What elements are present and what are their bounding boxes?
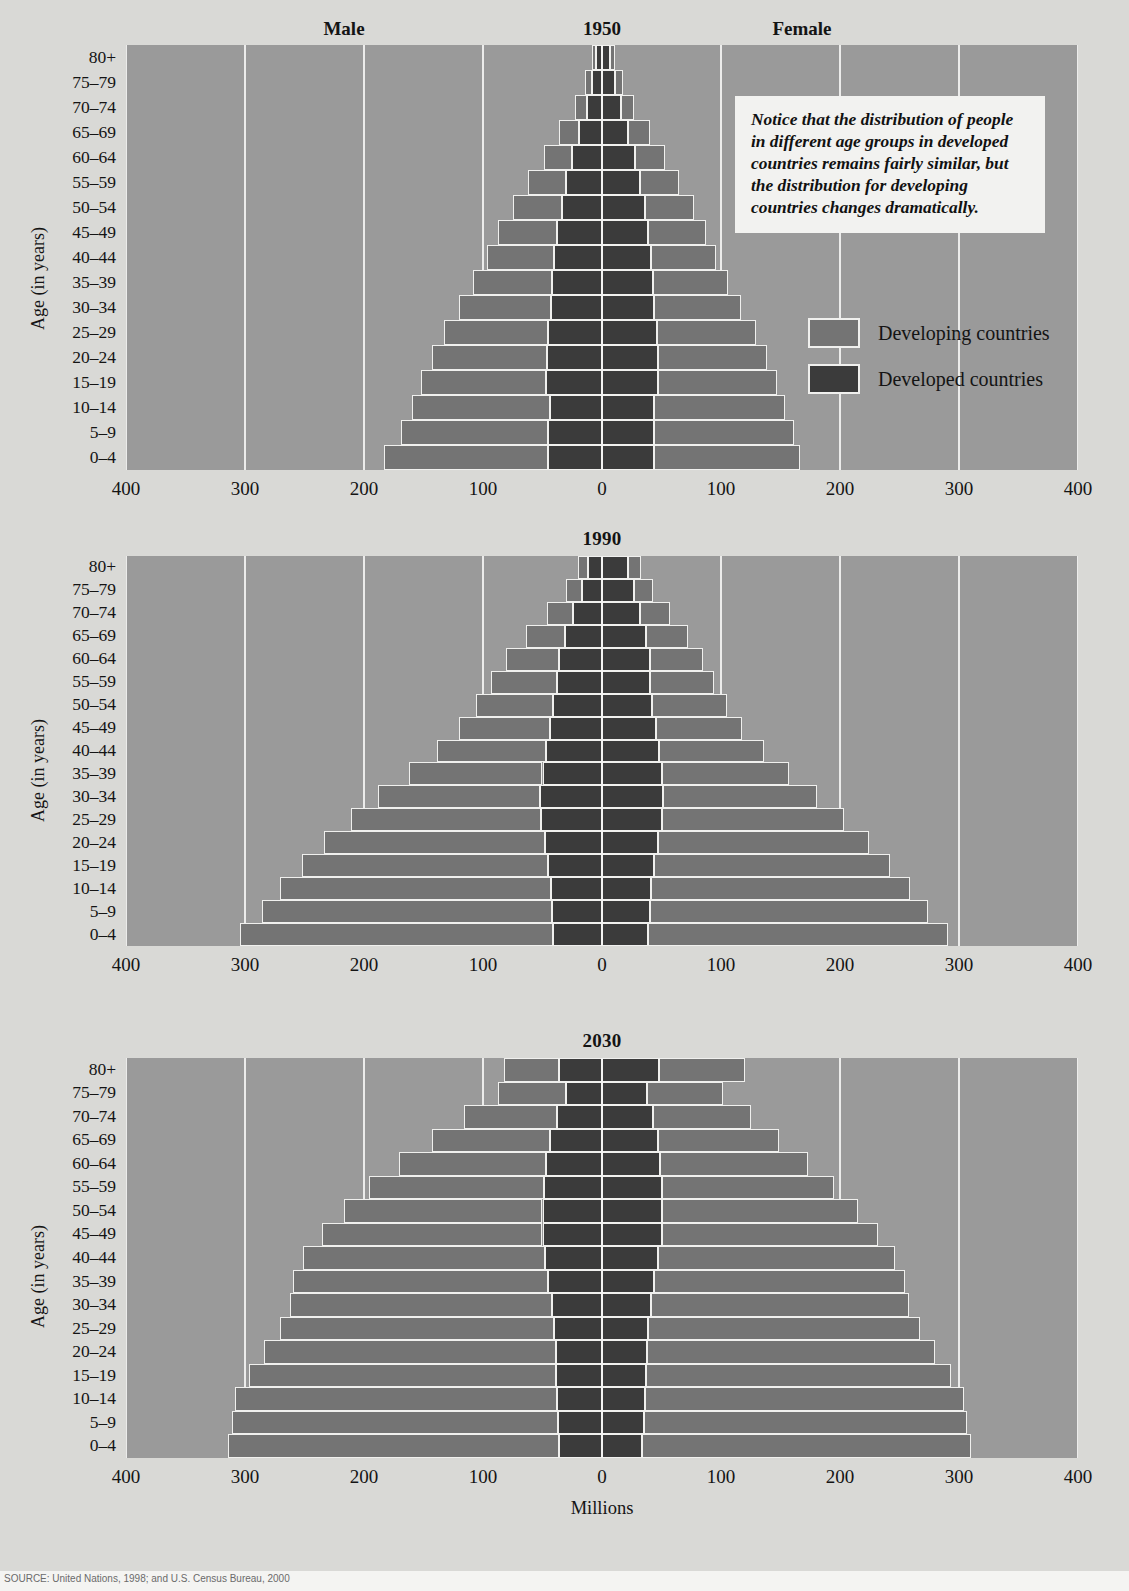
bar-male-developed (547, 345, 602, 370)
bar-female-developing (634, 579, 653, 602)
bar-female-developed (602, 120, 628, 145)
x-tick-label: 100 (681, 954, 761, 976)
bar-male-developed (565, 625, 602, 648)
bar-male-developed (546, 370, 602, 395)
bar-male-developing (280, 877, 551, 900)
bar-female-developed (602, 420, 654, 445)
bar-male-developing (547, 602, 573, 625)
bar-female-developing (662, 762, 789, 785)
bar-male-developed (559, 648, 602, 671)
panel-title-2030: 2030 (522, 1030, 682, 1052)
center-axis-line (601, 556, 603, 946)
center-axis-line (601, 1058, 603, 1458)
bar-female-developed (602, 1082, 647, 1106)
bar-female-developed (602, 1129, 658, 1153)
bar-male-developed (554, 1317, 602, 1341)
bar-male-developing (498, 1082, 566, 1106)
y-tick-label: 40–44 (72, 249, 116, 267)
bar-female-developing (662, 1223, 879, 1247)
y-tick-label: 60–64 (72, 149, 116, 167)
bar-female-developed (602, 1246, 658, 1270)
bar-female-developing (610, 45, 615, 70)
bar-male-developing (491, 671, 556, 694)
bar-male-developing (575, 95, 587, 120)
y-tick-label: 10–14 (72, 1390, 116, 1408)
bar-male-developed (572, 145, 602, 170)
bar-male-developed (554, 245, 602, 270)
y-tick-label: 80+ (89, 558, 116, 576)
y-tick-label: 40–44 (72, 742, 116, 760)
x-tick-label: 300 (919, 1466, 999, 1488)
bar-male-developed (566, 1082, 602, 1106)
bar-female-developed (602, 220, 648, 245)
bar-male-developed (562, 195, 602, 220)
bar-male-developing (264, 1340, 556, 1364)
x-tick-label: 300 (919, 954, 999, 976)
y-tick-label: 50–54 (72, 1202, 116, 1220)
bar-female-developing (635, 145, 665, 170)
bar-male-developing (401, 420, 549, 445)
bar-female-developed (602, 854, 654, 877)
bar-female-developed (602, 900, 650, 923)
bar-male-developing (473, 270, 552, 295)
annotation-box: Notice that the distribution of people i… (735, 96, 1045, 233)
bar-female-developed (602, 1105, 653, 1129)
y-tick-label: 55–59 (72, 1178, 116, 1196)
bar-male-developing (432, 1129, 550, 1153)
x-tick-label: 100 (681, 1466, 761, 1488)
bar-female-developed (602, 245, 651, 270)
y-tick-label: 10–14 (72, 880, 116, 898)
bar-female-developing (656, 717, 743, 740)
bar-female-developing (662, 1176, 835, 1200)
bar-female-developed (602, 1223, 662, 1247)
bar-male-developing (409, 762, 542, 785)
bar-female-developed (602, 45, 610, 70)
bar-male-developed (552, 900, 602, 923)
bar-male-developing (399, 1152, 547, 1176)
y-tick-label: 45–49 (72, 1225, 116, 1243)
bar-male-developed (556, 1340, 602, 1364)
bar-female-developed (602, 1199, 662, 1223)
bar-male-developing (369, 1176, 544, 1200)
bar-female-developing (615, 70, 623, 95)
bar-male-developing (559, 120, 579, 145)
bar-male-developing (378, 785, 540, 808)
x-tick-label: 400 (86, 478, 166, 500)
y-tick-label: 60–64 (72, 650, 116, 668)
x-tick-label: 300 (205, 1466, 285, 1488)
bar-female-developed (602, 625, 646, 648)
legend-swatch-developing (808, 318, 860, 348)
bar-female-developing (662, 808, 844, 831)
bar-female-developed (602, 1293, 651, 1317)
y-tick-label: 20–24 (72, 1343, 116, 1361)
bar-male-developing (249, 1364, 556, 1388)
bar-female-developing (628, 120, 649, 145)
bar-female-developing (659, 1058, 745, 1082)
bar-female-developing (654, 295, 741, 320)
x-tick-label: 200 (800, 478, 880, 500)
source-bar: SOURCE: United Nations, 1998; and U.S. C… (0, 1571, 1129, 1591)
y-tick-label: 5–9 (90, 1414, 116, 1432)
bar-female-developing (651, 245, 716, 270)
legend-item-developed: Developed countries (808, 364, 1043, 394)
bar-female-developing (650, 648, 704, 671)
y-tick-label: 65–69 (72, 1131, 116, 1149)
x-tick-label: 400 (1038, 478, 1118, 500)
y-tick-label: 70–74 (72, 99, 116, 117)
y-tick-label: 45–49 (72, 224, 116, 242)
bar-female-developing (654, 1270, 905, 1294)
x-tick-label: 100 (681, 478, 761, 500)
y-tick-label: 70–74 (72, 1108, 116, 1126)
bar-male-developing (506, 648, 560, 671)
bar-female-developing (658, 1129, 779, 1153)
bar-male-developing (280, 1317, 555, 1341)
y-tick-label: 15–19 (72, 1367, 116, 1385)
bar-female-developing (654, 395, 785, 420)
bar-female-developing (651, 877, 910, 900)
x-tick-label: 0 (562, 478, 642, 500)
bar-female-developing (657, 320, 756, 345)
legend-swatch-developed (808, 364, 860, 394)
bar-male-developed (566, 170, 602, 195)
bar-female-developed (602, 694, 652, 717)
bar-female-developed (602, 270, 653, 295)
